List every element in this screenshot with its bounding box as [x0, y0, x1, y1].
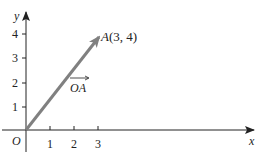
vector-label: OA — [70, 81, 87, 95]
y-tick-label-4: 4 — [12, 27, 18, 41]
x-tick-label-3: 3 — [95, 137, 101, 151]
x-tick-label-1: 1 — [47, 137, 53, 151]
vector-oa — [26, 37, 99, 130]
x-axis-label: x — [248, 134, 255, 148]
coordinate-plane: 1 2 3 1 2 3 4 y x O A(3, 4) OA — [0, 0, 263, 161]
point-a-label: A(3, 4) — [100, 29, 137, 44]
y-tick-label-1: 1 — [12, 100, 18, 114]
y-tick-label-3: 3 — [12, 51, 18, 65]
y-tick-label-2: 2 — [12, 76, 18, 90]
origin-label: O — [12, 134, 21, 148]
y-axis-label: y — [13, 9, 20, 23]
x-tick-label-2: 2 — [71, 137, 77, 151]
